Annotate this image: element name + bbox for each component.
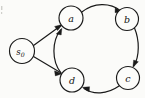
edge-s0-to-d: [34, 57, 63, 76]
node-c[interactable]: c: [117, 67, 140, 90]
node-a-label: a: [68, 13, 74, 24]
edge-a-to-b: [82, 5, 123, 13]
node-d[interactable]: d: [60, 68, 84, 92]
node-d-label: d: [69, 75, 75, 86]
node-c-label: c: [125, 73, 131, 84]
scan-artifact: [1, 6, 2, 10]
edge-c-to-d: [82, 86, 119, 93]
arrowhead-into-d: [82, 87, 89, 92]
node-a[interactable]: a: [59, 6, 83, 30]
node-s0[interactable]: s0: [10, 39, 35, 64]
edge-b-to-c: [133, 28, 139, 68]
edge-arc: [54, 30, 61, 73]
edge-d-to-a: [54, 28, 62, 72]
node-b-label: b: [124, 14, 130, 25]
edge-arc: [82, 5, 121, 13]
directed-graph-diagram: s0 a b c d: [0, 0, 145, 98]
node-b[interactable]: b: [116, 8, 139, 31]
figure-canvas: s0 a b c d: [0, 0, 145, 98]
scan-artifact: [1, 12, 2, 14]
arrowhead-into-c: [133, 60, 139, 68]
edge-s0-to-a: [34, 24, 63, 45]
